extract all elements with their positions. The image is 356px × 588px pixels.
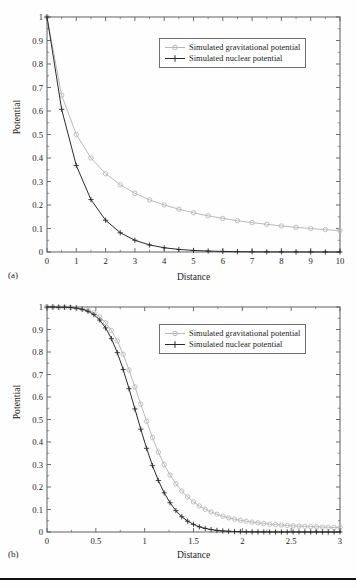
x-tick-label: 1.5: [179, 536, 209, 546]
legend-item-nuclear: Simulated nuclear potential: [164, 53, 300, 64]
legend-swatch-gravitational-icon: [164, 328, 186, 339]
y-tick-label: 0.7: [5, 83, 43, 93]
y-tick-label: 0.4: [5, 153, 43, 163]
x-tick-label: 10: [325, 256, 355, 266]
y-tick-label: 0.6: [5, 392, 43, 402]
y-tick-label: 1: [5, 302, 43, 312]
x-tick-label: 2.5: [276, 536, 306, 546]
y-tick-label: 0.5: [5, 130, 43, 140]
legend-label-gravitational: Simulated gravitational potential: [189, 329, 300, 338]
x-tick-label: 4: [149, 256, 179, 266]
y-tick-label: 0.1: [5, 224, 43, 234]
y-tick-label: 0.9: [5, 36, 43, 46]
x-tick-label: 3: [120, 256, 150, 266]
x-tick-label: 2: [91, 256, 121, 266]
legend-swatch-nuclear-icon: [164, 53, 186, 64]
y-tick-label: 0.8: [5, 347, 43, 357]
legend-a: Simulated gravitational potential Simula…: [159, 38, 306, 68]
x-tick-label: 2: [227, 536, 257, 546]
y-tick-label: 0.5: [5, 415, 43, 425]
legend-item-gravitational: Simulated gravitational potential: [164, 328, 300, 339]
legend-swatch-nuclear-icon: [164, 339, 186, 350]
y-tick-label: 0.8: [5, 59, 43, 69]
y-tick-label: 0.3: [5, 177, 43, 187]
x-tick-label: 0: [32, 256, 62, 266]
x-tick-label: 0: [32, 536, 62, 546]
x-tick-label: 1: [130, 536, 160, 546]
x-tick-label: 5: [179, 256, 209, 266]
legend-item-nuclear: Simulated nuclear potential: [164, 339, 300, 350]
x-tick-label: 1: [61, 256, 91, 266]
figure-page: Potential Distance (a) Simulated gravita…: [0, 0, 356, 588]
legend-label-gravitational: Simulated gravitational potential: [189, 43, 300, 52]
y-tick-label: 0.4: [5, 437, 43, 447]
y-tick-label: 0.7: [5, 370, 43, 380]
chart-panel-b: Potential Distance (b) Simulated gravita…: [0, 292, 356, 564]
y-tick-label: 0.2: [5, 482, 43, 492]
y-tick-label: 0.2: [5, 200, 43, 210]
x-tick-label: 3: [325, 536, 355, 546]
x-tick-label: 7: [237, 256, 267, 266]
chart-panel-a: Potential Distance (a) Simulated gravita…: [0, 0, 356, 292]
bottom-rule: [0, 578, 356, 580]
panel-label-b: (b): [8, 549, 19, 559]
y-tick-label: 0.3: [5, 460, 43, 470]
x-tick-label: 0.5: [81, 536, 111, 546]
legend-swatch-gravitational-icon: [164, 42, 186, 53]
y-tick-label: 0.9: [5, 325, 43, 335]
legend-b: Simulated gravitational potential Simula…: [159, 324, 306, 354]
y-tick-label: 0.6: [5, 106, 43, 116]
panel-label-a: (a): [8, 270, 18, 280]
x-tick-label: 9: [296, 256, 326, 266]
legend-label-nuclear: Simulated nuclear potential: [189, 340, 282, 349]
y-tick-label: 0.1: [5, 505, 43, 515]
x-tick-label: 8: [266, 256, 296, 266]
y-tick-label: 1: [5, 12, 43, 22]
x-axis-title-a: Distance: [47, 272, 340, 282]
x-axis-title-b: Distance: [47, 550, 340, 560]
legend-item-gravitational: Simulated gravitational potential: [164, 42, 300, 53]
legend-label-nuclear: Simulated nuclear potential: [189, 54, 282, 63]
x-tick-label: 6: [208, 256, 238, 266]
